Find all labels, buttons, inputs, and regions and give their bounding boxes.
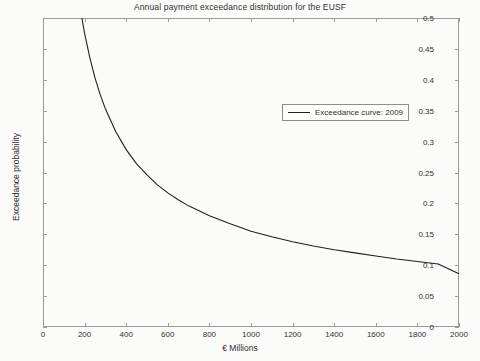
y-axis-tick bbox=[43, 234, 47, 235]
x-axis-tick bbox=[251, 323, 252, 327]
y-axis-tick-right bbox=[455, 142, 459, 143]
y-axis-tick-label: 0.2 bbox=[423, 199, 434, 208]
chart-figure: Annual payment exceedance distribution f… bbox=[0, 0, 480, 361]
exceedance-curve-series bbox=[43, 18, 459, 327]
x-axis-tick-top bbox=[251, 18, 252, 22]
x-axis-tick-top bbox=[85, 18, 86, 22]
x-axis-tick bbox=[334, 323, 335, 327]
legend: Exceedance curve: 2009 bbox=[282, 104, 409, 121]
x-axis-tick bbox=[459, 323, 460, 327]
legend-swatch-exceedance-curve bbox=[288, 112, 310, 114]
x-axis-tick-label: 1400 bbox=[325, 330, 343, 339]
y-axis-tick bbox=[43, 173, 47, 174]
x-axis-tick-label: 1800 bbox=[408, 330, 426, 339]
chart-title: Annual payment exceedance distribution f… bbox=[0, 2, 480, 12]
x-axis-tick bbox=[126, 323, 127, 327]
x-axis-tick-label: 800 bbox=[203, 330, 216, 339]
x-axis-tick-label: 1200 bbox=[284, 330, 302, 339]
y-axis-tick-right bbox=[455, 173, 459, 174]
x-axis-tick-top bbox=[168, 18, 169, 22]
x-axis-tick bbox=[209, 323, 210, 327]
x-axis-tick-label: 400 bbox=[120, 330, 133, 339]
x-axis-tick bbox=[293, 323, 294, 327]
y-axis-tick-label: 0.25 bbox=[418, 168, 434, 177]
x-axis-tick-label: 200 bbox=[78, 330, 91, 339]
y-axis-tick-right bbox=[455, 234, 459, 235]
y-axis-tick-right bbox=[455, 80, 459, 81]
y-axis-tick-right bbox=[455, 327, 459, 328]
x-axis-tick-top bbox=[43, 18, 44, 22]
x-axis-tick bbox=[43, 323, 44, 327]
y-axis-tick-label: 0.05 bbox=[418, 292, 434, 301]
y-axis-tick bbox=[43, 203, 47, 204]
x-axis-tick-label: 0 bbox=[41, 330, 45, 339]
y-axis-tick-right bbox=[455, 111, 459, 112]
legend-label-exceedance-curve: Exceedance curve: 2009 bbox=[315, 108, 403, 117]
y-axis-tick bbox=[43, 142, 47, 143]
y-axis-tick-right bbox=[455, 49, 459, 50]
x-axis-tick bbox=[168, 323, 169, 327]
y-axis-tick-label: 0.5 bbox=[423, 14, 434, 23]
x-axis-tick-top bbox=[459, 18, 460, 22]
y-axis-tick-label: 0.45 bbox=[418, 44, 434, 53]
y-axis-tick bbox=[43, 49, 47, 50]
y-axis-tick-label: 0.15 bbox=[418, 230, 434, 239]
x-axis-tick-label: 1000 bbox=[242, 330, 260, 339]
x-axis-tick-top bbox=[293, 18, 294, 22]
plot-area bbox=[43, 18, 459, 327]
y-axis-tick-label: 0.35 bbox=[418, 106, 434, 115]
x-axis-tick-label: 600 bbox=[161, 330, 174, 339]
x-axis-tick-top bbox=[126, 18, 127, 22]
x-axis-tick-top bbox=[209, 18, 210, 22]
y-axis-tick-right bbox=[455, 265, 459, 266]
y-axis-tick-label: 0 bbox=[430, 323, 434, 332]
y-axis-tick bbox=[43, 265, 47, 266]
x-axis-tick-label: 2000 bbox=[450, 330, 468, 339]
y-axis-label: Exceedance probability bbox=[11, 87, 21, 267]
x-axis-tick bbox=[85, 323, 86, 327]
x-axis-tick-top bbox=[417, 18, 418, 22]
y-axis-tick-label: 0.1 bbox=[423, 261, 434, 270]
y-axis-tick-label: 0.4 bbox=[423, 75, 434, 84]
y-axis-tick bbox=[43, 296, 47, 297]
y-axis-tick-right bbox=[455, 296, 459, 297]
x-axis-tick-top bbox=[376, 18, 377, 22]
y-axis-tick bbox=[43, 327, 47, 328]
x-axis-tick-top bbox=[334, 18, 335, 22]
y-axis-tick-label: 0.3 bbox=[423, 137, 434, 146]
x-axis-tick bbox=[417, 323, 418, 327]
x-axis-tick bbox=[376, 323, 377, 327]
y-axis-tick-right bbox=[455, 203, 459, 204]
x-axis-tick-label: 1600 bbox=[367, 330, 385, 339]
x-axis-label: € Millions bbox=[0, 343, 480, 353]
y-axis-tick bbox=[43, 80, 47, 81]
y-axis-tick bbox=[43, 111, 47, 112]
